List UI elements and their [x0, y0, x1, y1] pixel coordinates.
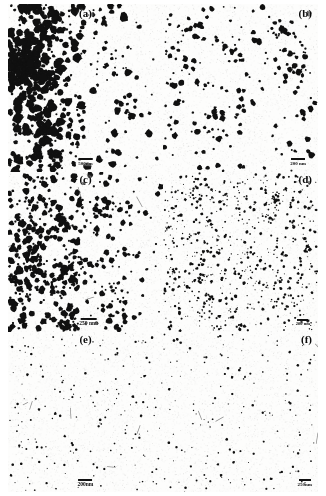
panel-c: (c) 250 nm. [8, 172, 163, 332]
panel-b-scalebar: 200 nm [290, 158, 306, 166]
panel-b-scalebar-label: 200 nm [290, 161, 306, 166]
panel-e-scalebar-label: 200nm [78, 482, 94, 488]
panel-f-scalebar-line [299, 479, 311, 481]
panel-f: (f) 250nm [163, 332, 318, 492]
panel-a-scalebar-label: 500nm [78, 161, 92, 166]
panel-e-scalebar: 200nm [78, 479, 94, 488]
panel-d-label: (d) [299, 174, 312, 185]
panel-f-scalebar-label: 250nm [298, 482, 312, 487]
panel-f-label: (f) [301, 334, 312, 345]
panel-f-scalebar: 250nm [298, 479, 312, 487]
micrograph-figure: (a) 500nm (b) 200 nm (c) 250 nm. (d) 200… [0, 0, 326, 496]
panel-e: (e) 200nm [8, 332, 163, 492]
panel-a: (a) 500nm [8, 4, 163, 172]
panel-b: (b) 200 nm [163, 4, 318, 172]
panel-c-label: (c) [79, 174, 91, 185]
panel-e-label: (e) [79, 334, 91, 345]
panel-d-scalebar-label: 200 nm [296, 322, 310, 327]
panel-c-image [8, 172, 163, 332]
panel-d-image [163, 172, 318, 332]
panel-f-image [163, 332, 318, 492]
panel-d-scalebar: 200 nm [296, 319, 310, 327]
panel-c-scalebar-label: 250 nm. [79, 321, 98, 327]
panel-a-scalebar-line [78, 158, 92, 160]
panel-a-scalebar: 500nm [78, 158, 92, 166]
panel-c-scalebar: 250 nm. [79, 318, 98, 327]
panel-b-scalebar-line [291, 158, 305, 160]
panel-b-image [163, 4, 318, 172]
panel-a-image [8, 4, 163, 172]
panel-e-image [8, 332, 163, 492]
panel-d: (d) 200 nm [163, 172, 318, 332]
panel-b-label: (b) [299, 8, 312, 19]
panel-a-label: (a) [79, 8, 92, 19]
